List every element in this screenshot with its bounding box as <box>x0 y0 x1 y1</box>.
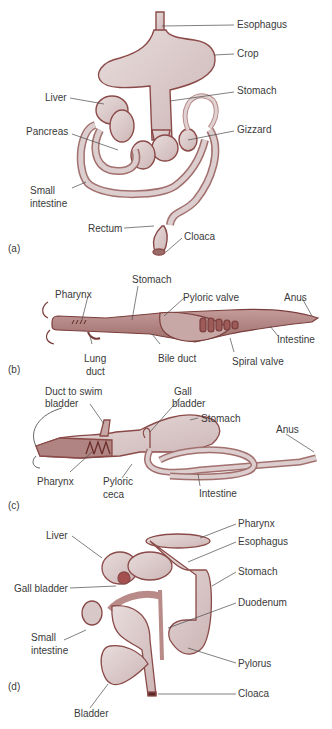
label-pharynx-d: Pharynx <box>238 518 275 529</box>
panel-tag-d: (d) <box>8 681 20 692</box>
label-pyloric-ceca-line2: ceca <box>103 489 124 500</box>
label-duodenum: Duodenum <box>238 597 287 608</box>
label-pylorus: Pylorus <box>238 658 271 669</box>
label-stomach-c: Stomach <box>201 413 240 424</box>
label-gall-bladder-d: Gall bladder <box>14 583 68 594</box>
label-small-intestine-a-line1: Small <box>30 185 55 196</box>
label-pharynx-b: Pharynx <box>55 289 92 300</box>
label-stomach-a: Stomach <box>237 85 276 96</box>
label-stomach-d: Stomach <box>238 566 277 577</box>
label-small-intestine-d-line1: Small <box>31 632 56 643</box>
label-lung-duct-line1: Lung <box>84 353 106 364</box>
label-esophagus-d: Esophagus <box>238 536 288 547</box>
label-pyloric-valve: Pyloric valve <box>183 292 239 303</box>
label-liver-d: Liver <box>46 530 68 541</box>
label-pharynx-c: Pharynx <box>37 476 74 487</box>
label-bladder: Bladder <box>74 708 108 719</box>
label-gall-bladder-c-line1: Gall <box>174 386 192 397</box>
panel-tag-a: (a) <box>8 243 20 254</box>
label-gall-bladder-c-line2: bladder <box>172 398 205 409</box>
label-pyloric-ceca-line1: Pyloric <box>103 476 133 487</box>
label-intestine-c: Intestine <box>199 488 237 499</box>
label-bile-duct: Bile duct <box>158 353 196 364</box>
label-small-intestine-a-line2: intestine <box>30 198 67 209</box>
label-small-intestine-d-line2: intestine <box>31 645 68 656</box>
label-anus-c: Anus <box>276 424 299 435</box>
label-gizzard: Gizzard <box>237 124 271 135</box>
label-cloaca-a: Cloaca <box>184 231 215 242</box>
label-stomach-b: Stomach <box>132 274 171 285</box>
panel-a-drawing <box>81 12 217 255</box>
label-intestine-b: Intestine <box>277 334 315 345</box>
label-lung-duct-line2: duct <box>86 366 105 377</box>
panel-tag-b: (b) <box>8 364 20 375</box>
label-duct-swim-bladder-line2: bladder <box>45 398 78 409</box>
label-crop: Crop <box>237 48 259 59</box>
label-rectum: Rectum <box>88 223 122 234</box>
label-duct-swim-bladder-line1: Duct to swim <box>45 386 102 397</box>
label-esophagus-a: Esophagus <box>237 19 287 30</box>
panel-d-drawing <box>82 534 211 696</box>
label-anus-b: Anus <box>284 292 307 303</box>
label-cloaca-d: Cloaca <box>238 688 269 699</box>
label-pancreas: Pancreas <box>26 126 68 137</box>
panel-tag-c: (c) <box>8 500 20 511</box>
label-spiral-valve: Spiral valve <box>232 356 284 367</box>
label-liver-a: Liver <box>45 92 67 103</box>
